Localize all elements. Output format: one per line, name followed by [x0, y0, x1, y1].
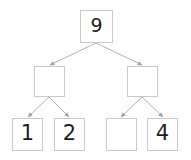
tree-node-root[interactable]: 9: [80, 10, 113, 43]
tree-node-leaf-2[interactable]: 2: [54, 118, 85, 151]
tree-edge: [96, 43, 142, 65]
tree-edge: [50, 43, 96, 65]
tree-node-mid-right[interactable]: [127, 66, 158, 97]
tree-node-label: 1: [21, 123, 34, 144]
tree-edge: [49, 97, 69, 117]
tree-node-leaf-1[interactable]: 1: [12, 118, 43, 151]
tree-node-label: 4: [156, 123, 169, 144]
tree-diagram-canvas: 9124: [0, 0, 191, 160]
tree-node-label: 9: [90, 16, 102, 35]
tree-node-leaf-3[interactable]: [106, 118, 137, 151]
tree-edge: [142, 97, 163, 117]
tree-node-leaf-4[interactable]: 4: [147, 118, 178, 151]
tree-edge: [121, 97, 142, 117]
tree-edge: [28, 97, 49, 117]
tree-node-label: 2: [63, 123, 76, 144]
tree-node-mid-left[interactable]: [34, 66, 65, 97]
